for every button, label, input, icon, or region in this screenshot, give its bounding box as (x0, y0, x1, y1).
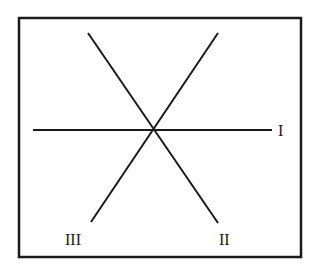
label-i: I (278, 122, 283, 139)
label-ii: II (219, 231, 230, 248)
diagram: I II III (0, 0, 327, 268)
label-iii: III (65, 231, 81, 248)
